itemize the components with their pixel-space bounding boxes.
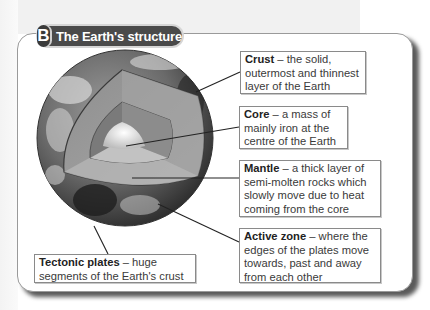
section-badge: B — [37, 25, 50, 47]
active-zone-leader-line — [158, 204, 239, 242]
core-term: Core — [244, 108, 270, 120]
earth-globe — [37, 50, 213, 226]
tectonic-plates-term: Tectonic plates — [39, 256, 120, 268]
active-zone-label: Active zone – where the edges of the pla… — [239, 228, 381, 283]
crust-term: Crust — [245, 53, 274, 65]
active-zone-term: Active zone — [244, 230, 306, 242]
tectonic-plates-leader-line — [94, 226, 108, 254]
mantle-label: Mantle – a thick layer of semi-molten ro… — [239, 160, 381, 217]
crust-label: Crust – the solid, outermost and thinnes… — [240, 51, 366, 94]
tectonic-plates-label: Tectonic plates – huge segments of the E… — [34, 254, 196, 283]
section-title: The Earth's structure — [56, 29, 182, 44]
section-title-tag: B The Earth's structure — [38, 26, 182, 46]
crust-leader-line — [196, 72, 240, 92]
mantle-term: Mantle — [244, 162, 279, 174]
core-label: Core – a mass of mainly iron at the cent… — [239, 106, 348, 149]
